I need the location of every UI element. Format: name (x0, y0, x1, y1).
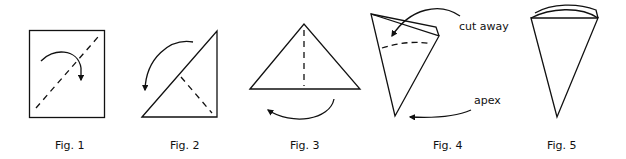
fig1-caption: Fig. 1 (55, 139, 85, 152)
cut-away-label: cut away (459, 20, 509, 33)
diagram-canvas (0, 0, 626, 159)
apex-label: apex (474, 94, 501, 107)
fig4-caption: Fig. 4 (433, 139, 463, 152)
fig4-cone-drawing (371, 9, 471, 118)
fig1-square-drawing (30, 31, 105, 118)
fig5-caption: Fig. 5 (547, 139, 577, 152)
fig3-triangle-drawing (250, 24, 360, 119)
fig2-triangle-drawing (142, 31, 217, 117)
fig3-caption: Fig. 3 (290, 139, 320, 152)
fig5-cone-drawing (531, 5, 598, 117)
fig2-caption: Fig. 2 (170, 139, 200, 152)
